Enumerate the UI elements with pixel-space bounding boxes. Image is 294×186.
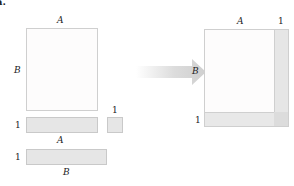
combined-matrix-border — [204, 29, 289, 127]
col-vector-box — [26, 149, 107, 165]
scalar-box-top-label: 1 — [112, 105, 118, 115]
main-box-side-label: B — [14, 65, 21, 75]
col-vector-bottom-label: B — [63, 167, 70, 177]
row-vector-box — [26, 117, 98, 133]
row-vector-side-label: 1 — [15, 120, 21, 130]
combined-side-label-main: B — [192, 66, 199, 76]
col-vector-side-label: 1 — [15, 152, 21, 162]
main-box-top-label: A — [57, 15, 64, 25]
panel-label: a. — [0, 0, 6, 7]
combined-side-label-extra: 1 — [195, 115, 201, 125]
combined-top-label-extra: 1 — [278, 16, 284, 26]
combined-top-label-main: A — [237, 16, 244, 26]
main-box — [26, 28, 98, 111]
row-vector-bottom-label: A — [57, 135, 64, 145]
scalar-box — [107, 117, 123, 133]
